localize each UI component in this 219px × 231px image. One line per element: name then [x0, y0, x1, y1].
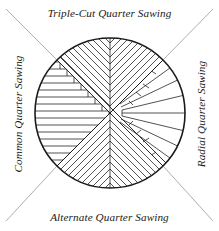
- log-cross-section-svg: [0, 0, 219, 231]
- label-common-quarter-sawing: Common Quarter Sawing: [12, 39, 24, 189]
- label-alternate-quarter-sawing: Alternate Quarter Sawing: [0, 211, 219, 223]
- quarter-sawing-diagram: Triple-Cut Quarter Sawing Alternate Quar…: [0, 0, 219, 231]
- label-radial-quarter-sawing: Radial Quarter Sawing: [195, 39, 207, 189]
- label-triple-cut-quarter-sawing: Triple-Cut Quarter Sawing: [0, 7, 219, 19]
